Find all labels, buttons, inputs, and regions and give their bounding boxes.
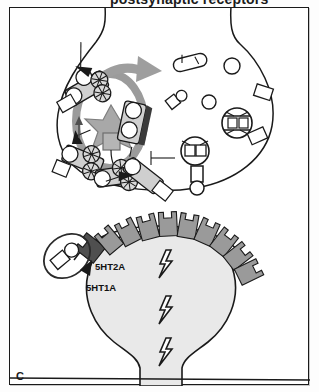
loaded-vesicle-2 — [181, 137, 209, 165]
cleft-neurotransmitter-molecule — [190, 166, 204, 195]
label-5ht1a: 5HT1A — [86, 282, 116, 293]
small-vesicle-2 — [202, 95, 216, 109]
binding-arrow — [80, 260, 92, 276]
panel-letter: C — [16, 370, 24, 382]
drug-molecule — [49, 240, 81, 270]
panel-border: 5HT2A 5HT1A C — [9, 7, 309, 385]
label-5ht2a: 5HT2A — [95, 261, 125, 272]
small-vesicle-1 — [224, 58, 240, 74]
cropped-heading-strip: postsynaptic receptors — [0, 0, 319, 7]
synapse-diagram — [10, 8, 310, 386]
receptor — [158, 212, 177, 237]
figure-panel-c: postsynaptic receptors — [0, 0, 319, 392]
cropped-heading-text: postsynaptic receptors — [110, 0, 268, 7]
baseline — [10, 378, 310, 380]
